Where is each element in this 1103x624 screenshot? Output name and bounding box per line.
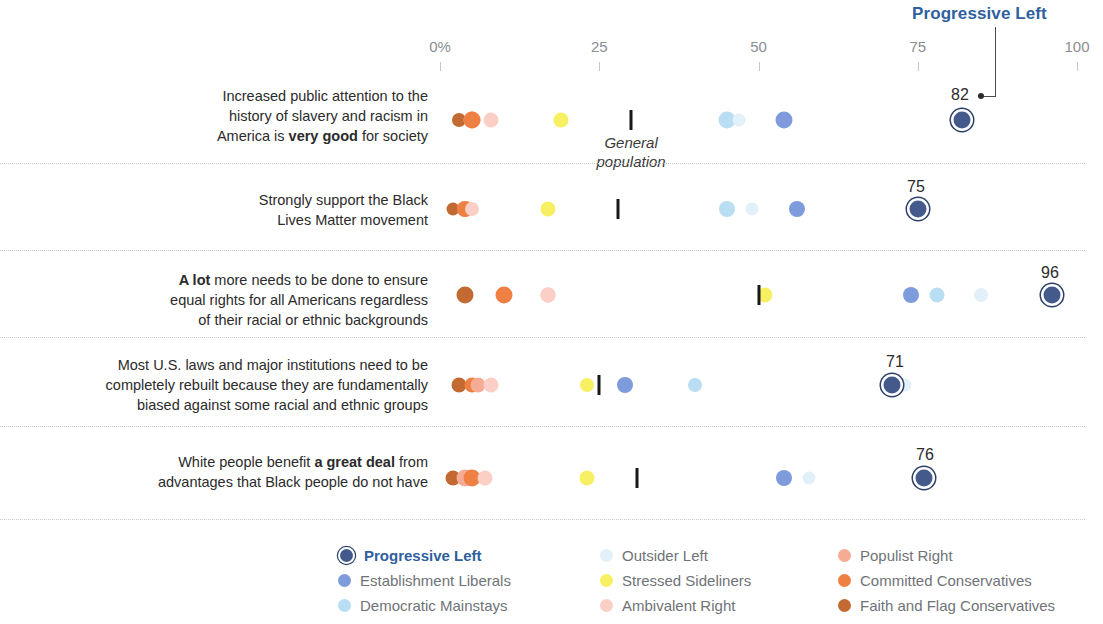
data-point-outsider_left[interactable] [733, 114, 746, 127]
general-population-marker [636, 468, 639, 488]
progressive-left-value-label: 76 [916, 446, 934, 464]
data-point-stressed_sideliners[interactable] [541, 202, 556, 217]
legend-item-outsider_left[interactable]: Outsider Left [600, 543, 751, 568]
progressive-left-value-label: 71 [886, 353, 904, 371]
general-population-marker [617, 199, 620, 219]
legend-swatch-progressive_left [340, 549, 353, 562]
x-axis-tick-label: 75 [909, 38, 926, 55]
callout-leader-line [995, 27, 996, 97]
data-point-ambivalent_right[interactable] [483, 378, 498, 393]
data-point-committed_conservatives[interactable] [463, 112, 480, 129]
legend-item-establishment_liberals[interactable]: Establishment Liberals [338, 568, 511, 593]
legend-item-faith_and_flag[interactable]: Faith and Flag Conservatives [838, 593, 1055, 618]
legend-swatch-outsider_left [600, 549, 613, 562]
row-plot-area [0, 465, 1103, 491]
legend-label: Populist Right [860, 547, 953, 564]
row-plot-area [0, 372, 1103, 398]
callout-leader-elbow [982, 96, 996, 97]
data-point-establishment_liberals[interactable] [775, 112, 792, 129]
legend-swatch-establishment_liberals [338, 574, 351, 587]
data-point-progressive_left[interactable] [884, 377, 901, 394]
data-point-democratic_mainstays[interactable] [929, 288, 944, 303]
data-point-establishment_liberals[interactable] [903, 287, 919, 303]
legend-item-stressed_sideliners[interactable]: Stressed Sideliners [600, 568, 751, 593]
x-axis-tick-label: 25 [591, 38, 608, 55]
progressive-left-value-label: 96 [1041, 264, 1059, 282]
dot-plot-chart: Progressive Left 0%255075100 Increased p… [0, 0, 1103, 624]
data-point-progressive_left[interactable] [954, 112, 971, 129]
data-point-ambivalent_right[interactable] [465, 202, 479, 216]
legend-label: Stressed Sideliners [622, 572, 751, 589]
data-point-ambivalent_right[interactable] [541, 288, 556, 303]
row-separator [0, 426, 1085, 427]
data-point-progressive_left[interactable] [916, 470, 933, 487]
legend-column: Populist RightCommitted ConservativesFai… [838, 543, 1055, 618]
legend-column: Outsider LeftStressed SidelinersAmbivale… [600, 543, 751, 618]
row-separator [0, 519, 1085, 520]
legend-label: Democratic Mainstays [360, 597, 508, 614]
data-point-progressive_left[interactable] [909, 201, 926, 218]
x-axis-tick-mark [1077, 62, 1078, 71]
data-point-democratic_mainstays[interactable] [688, 378, 702, 392]
x-axis-tick-mark [759, 62, 760, 71]
data-point-establishment_liberals[interactable] [617, 377, 633, 393]
legend-item-democratic_mainstays[interactable]: Democratic Mainstays [338, 593, 511, 618]
data-point-establishment_liberals[interactable] [789, 201, 805, 217]
x-axis-tick-label: 0% [429, 38, 451, 55]
data-point-stressed_sideliners[interactable] [554, 113, 569, 128]
general-population-marker [757, 285, 760, 305]
callout-endpoint-dot [978, 93, 984, 99]
general-population-note-line2: population [596, 152, 665, 171]
data-point-democratic_mainstays[interactable] [719, 201, 735, 217]
legend-item-populist_right[interactable]: Populist Right [838, 543, 1055, 568]
legend-item-committed_conservatives[interactable]: Committed Conservatives [838, 568, 1055, 593]
x-axis-tick-label: 100 [1064, 38, 1089, 55]
row-separator [0, 163, 1085, 164]
data-point-establishment_liberals[interactable] [776, 470, 792, 486]
progressive-left-value-label: 75 [907, 178, 925, 196]
row-plot-area [0, 107, 1103, 133]
x-axis-tick-mark [440, 62, 441, 71]
legend-item-ambivalent_right[interactable]: Ambivalent Right [600, 593, 751, 618]
x-axis-tick-label: 50 [750, 38, 767, 55]
row-plot-area [0, 282, 1103, 308]
data-point-progressive_left[interactable] [1043, 287, 1060, 304]
legend-swatch-populist_right [838, 549, 851, 562]
data-point-outsider_left[interactable] [746, 203, 759, 216]
data-point-outsider_left[interactable] [974, 288, 988, 302]
row-separator [0, 250, 1085, 251]
legend-label: Progressive Left [364, 547, 482, 564]
data-point-outsider_left[interactable] [803, 472, 816, 485]
legend-swatch-faith_and_flag [838, 599, 851, 612]
data-point-ambivalent_right[interactable] [483, 113, 498, 128]
callout-title: Progressive Left [912, 4, 1047, 24]
data-point-committed_conservatives[interactable] [495, 287, 512, 304]
data-point-ambivalent_right[interactable] [477, 471, 492, 486]
legend-swatch-ambivalent_right [600, 599, 613, 612]
legend-column: Progressive LeftEstablishment LiberalsDe… [338, 543, 511, 618]
data-point-stressed_sideliners[interactable] [579, 471, 594, 486]
row-plot-area [0, 196, 1103, 222]
general-population-marker [630, 110, 633, 130]
data-point-faith_and_flag[interactable] [457, 287, 474, 304]
legend-label: Outsider Left [622, 547, 708, 564]
legend-label: Ambivalent Right [622, 597, 735, 614]
general-population-note-line1: General [596, 133, 665, 152]
legend-label: Faith and Flag Conservatives [860, 597, 1055, 614]
legend-swatch-committed_conservatives [838, 574, 851, 587]
legend-swatch-democratic_mainstays [338, 599, 351, 612]
x-axis-tick-mark [918, 62, 919, 71]
row-separator [0, 337, 1085, 338]
legend-label: Committed Conservatives [860, 572, 1032, 589]
data-point-stressed_sideliners[interactable] [580, 378, 594, 392]
general-population-marker [598, 375, 601, 395]
x-axis-tick-mark [599, 62, 600, 71]
legend-label: Establishment Liberals [360, 572, 511, 589]
legend-swatch-stressed_sideliners [600, 574, 613, 587]
progressive-left-value-label: 82 [951, 86, 969, 104]
legend-item-progressive_left[interactable]: Progressive Left [338, 543, 511, 568]
general-population-note: Generalpopulation [596, 133, 665, 171]
